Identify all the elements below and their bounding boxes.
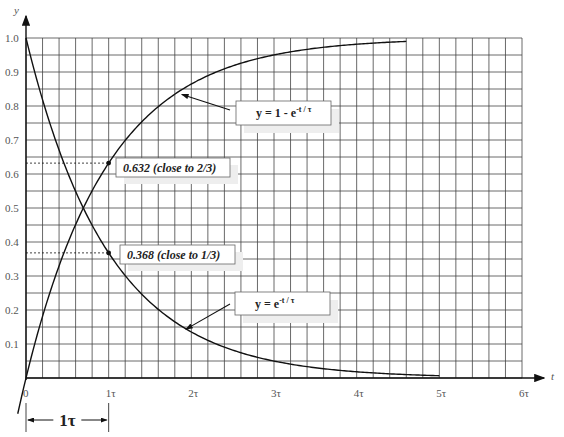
x-tick-label: 1τ: [106, 387, 117, 399]
time-constant-chart: ty 01τ2τ3τ4τ5τ6τ0.10.20.30.40.50.60.70.8…: [0, 0, 564, 437]
y-tick-label: 0.9: [5, 66, 19, 78]
value-label: 0.632 (close to 2/3): [123, 161, 216, 175]
y-tick-label: 0.3: [5, 270, 19, 282]
annotations: y = 1 - e-t / τy = e-t / τ0.632 (close t…: [26, 94, 339, 329]
y-tick-label: 0.4: [5, 236, 19, 248]
x-tick-label: 6τ: [519, 387, 530, 399]
formula-main: y = 1 - e: [256, 106, 297, 120]
marker-point: [106, 161, 111, 166]
formula-exponent: -t / τ: [296, 105, 312, 114]
x-axis-label: t: [551, 370, 555, 382]
grid: [26, 38, 522, 378]
bracket-label: 1τ: [59, 411, 76, 430]
y-tick-label: 0.2: [5, 304, 19, 316]
x-tick-label: 5τ: [436, 387, 447, 399]
y-tick-label: 0.7: [5, 134, 19, 146]
value-label: 0.368 (close to 1/3): [127, 248, 220, 262]
x-tick-label: 2τ: [188, 387, 199, 399]
curve-rise: [18, 41, 407, 413]
y-tick-label: 0.6: [5, 168, 19, 180]
formula-exponent: -t / τ: [279, 296, 295, 305]
y-tick-label: 1.0: [5, 32, 19, 44]
pointer-arrow-rise: [182, 94, 230, 110]
y-tick-label: 0.1: [5, 338, 19, 350]
y-tick-label: 0.5: [5, 202, 19, 214]
tau-bracket: 1τ: [26, 403, 109, 432]
axes: ty: [13, 4, 555, 382]
marker-point: [106, 250, 111, 255]
x-tick-label: 3τ: [271, 387, 282, 399]
y-tick-label: 0.8: [5, 100, 19, 112]
formula-main: y = e: [255, 297, 280, 311]
curves: [18, 38, 440, 414]
y-axis-label: y: [13, 4, 19, 16]
x-tick-label: 4τ: [354, 387, 365, 399]
